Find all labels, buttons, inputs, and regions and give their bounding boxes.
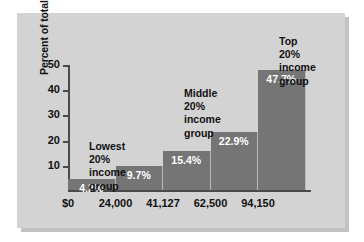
bar-value-label: 15.4% (163, 154, 210, 166)
y-tick-mark (63, 115, 69, 117)
x-tick-label-1: 24,000 (99, 197, 133, 209)
x-tick-label-4: 94,150 (241, 197, 275, 209)
annotation-line: group (89, 180, 126, 193)
y-tick-label: 50 (48, 58, 60, 70)
annotation-middle-20-income-group: Middle 20% income group (184, 87, 221, 140)
annotation-line: 20% (184, 100, 221, 113)
y-tick-mark (63, 90, 69, 92)
annotation-line: group (279, 75, 316, 88)
y-tick-label: 30 (48, 108, 60, 120)
y-tick-mark (63, 65, 69, 67)
annotation-line: income (89, 166, 126, 179)
annotation-top-20-income-group: Top 20% income group (279, 35, 316, 88)
x-tick-label-2: 41,127 (146, 197, 180, 209)
chart-panel: Percent of total income 50 40 30 20 (17, 13, 345, 228)
y-tick-label: 10 (48, 159, 60, 171)
annotation-lowest-20-income-group: Lowest 20% income group (89, 140, 126, 193)
bar-fourth-20[interactable]: 22.9% (211, 132, 259, 190)
annotation-line: income (279, 61, 316, 74)
annotation-line: 20% (89, 153, 126, 166)
annotation-line: Lowest (89, 140, 126, 153)
annotation-line: Top (279, 35, 316, 48)
y-tick-mark (63, 141, 69, 143)
y-tick-label: 40 (48, 83, 60, 95)
annotation-line: group (184, 127, 221, 140)
annotation-line: 20% (279, 48, 316, 61)
y-tick-mark (63, 166, 69, 168)
bar-top-20[interactable]: 47.7% (258, 70, 306, 190)
figure-container: Percent of total income 50 40 30 20 (0, 0, 364, 242)
x-tick-label-3: 62,500 (194, 197, 228, 209)
bar-middle-20[interactable]: 15.4% (163, 151, 211, 190)
y-tick-label: 20 (48, 134, 60, 146)
annotation-line: Middle (184, 87, 221, 100)
annotation-line: income (184, 113, 221, 126)
y-axis-line (68, 65, 70, 191)
x-tick-label-0: $0 (62, 197, 74, 209)
